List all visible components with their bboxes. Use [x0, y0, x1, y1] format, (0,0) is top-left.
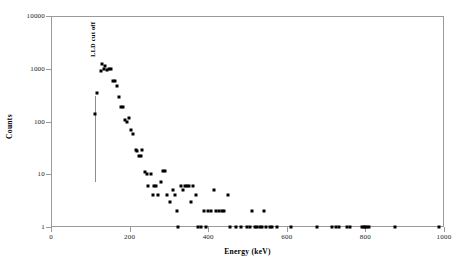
lld-cut-off-label-wrap: LLD cut off — [96, 50, 131, 57]
y-axis-tick-label: 10000 — [27, 12, 46, 20]
data-point — [289, 226, 292, 229]
y-axis-tick-labels: 110100100010000 — [0, 16, 45, 227]
y-axis-tick-label: 10 — [38, 170, 45, 178]
data-point — [261, 226, 264, 229]
data-point — [160, 181, 163, 184]
data-point — [130, 129, 133, 132]
data-point — [175, 210, 178, 213]
data-point — [118, 96, 121, 99]
data-point — [229, 226, 232, 229]
data-point — [149, 173, 152, 176]
x-axis-title: Energy (keV) — [51, 247, 444, 256]
x-axis-tick-label: 400 — [203, 232, 214, 242]
data-point — [132, 133, 135, 136]
data-point — [127, 117, 130, 120]
plot-area: LLD cut off — [51, 16, 444, 227]
y-axis-tick — [46, 174, 51, 175]
data-point — [205, 226, 208, 229]
data-point — [136, 149, 139, 152]
data-point — [239, 226, 242, 229]
data-point — [226, 194, 229, 197]
y-axis-tick-label: 1 — [41, 223, 45, 231]
data-point — [188, 184, 191, 187]
data-point — [121, 105, 124, 108]
data-point — [174, 194, 177, 197]
data-point — [179, 184, 182, 187]
data-point — [202, 210, 205, 213]
y-axis-tick-label: 100 — [34, 118, 45, 126]
x-axis-tick-label: 200 — [124, 232, 135, 242]
data-point — [367, 226, 370, 229]
data-point — [251, 210, 254, 213]
data-point — [316, 226, 319, 229]
spectrum-chart: Counts 110100100010000 LLD cut off 02004… — [0, 0, 467, 266]
data-point — [114, 80, 117, 83]
x-axis-tick-label: 600 — [281, 232, 292, 242]
data-point — [96, 91, 99, 94]
data-point — [194, 194, 197, 197]
data-point — [104, 64, 107, 67]
y-axis-tick — [46, 69, 51, 70]
x-axis-tick-labels: 02004006008001000 — [51, 232, 444, 244]
data-point — [141, 148, 144, 151]
data-point — [199, 226, 202, 229]
y-axis-tick — [46, 16, 51, 17]
x-axis-tick-label: 800 — [360, 232, 371, 242]
data-point — [271, 226, 274, 229]
x-axis-tick-label: 0 — [49, 232, 53, 242]
data-point — [348, 226, 351, 229]
data-point — [94, 112, 97, 115]
data-point — [192, 184, 195, 187]
x-axis-tick-label: 1000 — [437, 232, 452, 242]
data-point — [438, 226, 441, 229]
data-point — [223, 210, 226, 213]
data-point — [176, 226, 179, 229]
data-point — [212, 189, 215, 192]
data-point — [276, 226, 279, 229]
data-point — [157, 194, 160, 197]
data-point — [337, 226, 340, 229]
data-point — [139, 155, 142, 158]
data-point — [171, 189, 174, 192]
data-point — [210, 210, 213, 213]
data-point — [166, 194, 169, 197]
lld-cut-off-line — [95, 96, 96, 182]
data-point — [169, 200, 172, 203]
data-point — [163, 170, 166, 173]
data-point — [109, 67, 112, 70]
data-point — [263, 210, 266, 213]
data-point — [147, 184, 150, 187]
data-point — [235, 226, 238, 229]
data-point — [189, 200, 192, 203]
data-point — [182, 189, 185, 192]
lld-cut-off-label: LLD cut off — [89, 22, 96, 57]
data-point — [126, 120, 129, 123]
y-axis-tick — [46, 122, 51, 123]
data-point — [155, 184, 158, 187]
data-point — [151, 194, 154, 197]
y-axis-tick-label: 1000 — [30, 65, 45, 73]
data-point — [394, 226, 397, 229]
data-point — [248, 226, 251, 229]
data-point — [116, 85, 119, 88]
